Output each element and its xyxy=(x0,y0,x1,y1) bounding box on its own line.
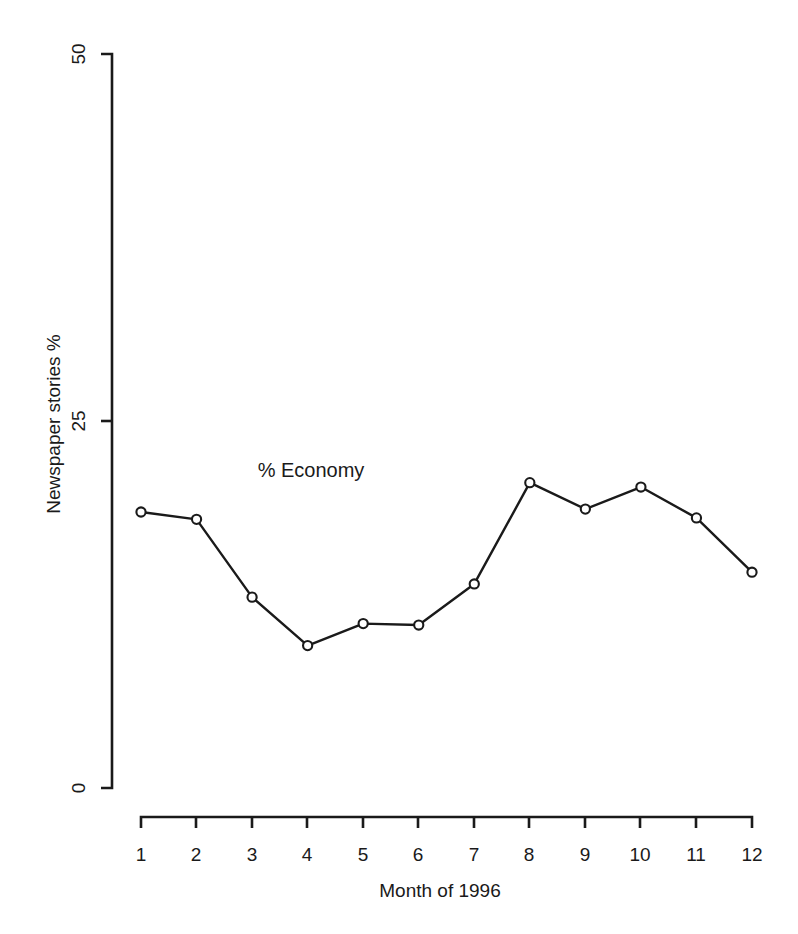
data-point-marker xyxy=(525,478,534,487)
x-tick-label-3: 3 xyxy=(247,844,258,865)
x-tick-label-1: 1 xyxy=(136,844,147,865)
data-point-marker xyxy=(247,593,256,602)
x-tick-label-10: 10 xyxy=(629,844,650,865)
data-point-marker xyxy=(303,641,312,650)
data-point-marker xyxy=(581,504,590,513)
x-axis-title: Month of 1996 xyxy=(379,880,500,901)
x-tick-label-12: 12 xyxy=(741,844,762,865)
series-label-economy: % Economy xyxy=(258,459,365,481)
y-tick-label-25: 25 xyxy=(68,410,89,431)
data-point-marker xyxy=(414,620,423,629)
data-point-marker xyxy=(470,579,479,588)
data-point-marker xyxy=(192,515,201,524)
x-tick-label-11: 11 xyxy=(686,844,706,865)
x-tick-label-4: 4 xyxy=(302,844,313,865)
chart-figure: 0 25 50 Newspaper stories % 1 2 3 4 5 6 … xyxy=(0,0,798,934)
x-tick-label-8: 8 xyxy=(524,844,535,865)
x-tick-label-7: 7 xyxy=(469,844,480,865)
x-tick-label-9: 9 xyxy=(580,844,591,865)
x-tick-label-6: 6 xyxy=(413,844,424,865)
data-point-marker xyxy=(692,513,701,522)
y-tick-label-50: 50 xyxy=(68,43,89,64)
data-point-marker xyxy=(359,619,368,628)
x-tick-label-5: 5 xyxy=(358,844,369,865)
plot-background xyxy=(0,0,798,934)
data-point-marker xyxy=(747,568,756,577)
y-tick-label-0: 0 xyxy=(68,783,89,794)
y-axis-title: Newspaper stories % xyxy=(43,334,64,514)
x-tick-label-2: 2 xyxy=(191,844,202,865)
data-point-marker xyxy=(636,482,645,491)
data-point-marker xyxy=(136,507,145,516)
line-chart-canvas: 0 25 50 Newspaper stories % 1 2 3 4 5 6 … xyxy=(0,0,798,934)
